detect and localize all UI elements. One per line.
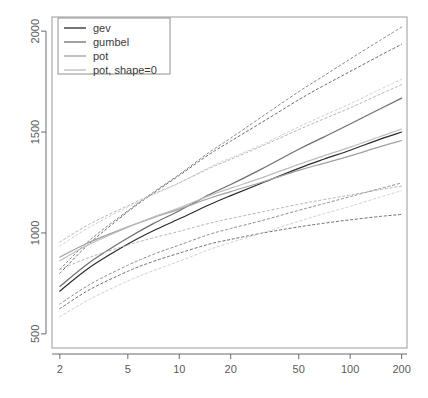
y-tick-label: 1000 bbox=[29, 221, 41, 245]
x-tick-label: 5 bbox=[125, 363, 131, 375]
legend-label-0: gev bbox=[93, 22, 111, 34]
legend-label-2: pot bbox=[93, 50, 108, 62]
x-tick-label: 20 bbox=[225, 363, 237, 375]
x-tick-label: 100 bbox=[341, 363, 359, 375]
y-tick-label: 500 bbox=[29, 325, 41, 343]
legend-label-1: gumbel bbox=[93, 36, 129, 48]
x-tick-label: 200 bbox=[392, 363, 410, 375]
x-tick-label: 2 bbox=[57, 363, 63, 375]
return-level-plot: 25102050100200 500100015002000 gevgumbel… bbox=[0, 0, 428, 398]
x-tick-label: 10 bbox=[173, 363, 185, 375]
chart-canvas: 25102050100200 500100015002000 gevgumbel… bbox=[0, 0, 428, 398]
legend: gevgumbelpotpot, shape=0 bbox=[58, 18, 170, 76]
y-tick-label: 2000 bbox=[29, 19, 41, 43]
legend-label-3: pot, shape=0 bbox=[93, 64, 157, 76]
y-tick-label: 1500 bbox=[29, 120, 41, 144]
x-tick-label: 50 bbox=[293, 363, 305, 375]
